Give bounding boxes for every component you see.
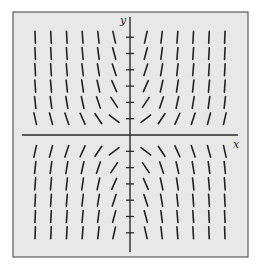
slope-segment [177, 227, 178, 239]
slope-segment [82, 211, 83, 223]
slope-segment [193, 31, 194, 43]
slope-segment [51, 31, 52, 43]
slope-segment [35, 80, 36, 92]
slope-segment [224, 178, 225, 190]
slope-segment [50, 178, 51, 190]
slope-segment [66, 31, 67, 43]
slope-segment [193, 211, 194, 223]
slope-segment [66, 194, 67, 206]
y-axis-label: y [119, 14, 127, 27]
slope-segment [224, 80, 225, 92]
slope-segment [224, 64, 225, 76]
slope-segment [209, 227, 210, 239]
slope-segment [225, 48, 226, 60]
slope-segment [66, 48, 67, 60]
slope-segment [66, 211, 67, 223]
slope-segment [82, 31, 83, 43]
slope-segment [177, 31, 178, 43]
slope-segment [225, 211, 226, 223]
slope-segment [66, 64, 67, 76]
slope-segment [51, 48, 52, 60]
slope-segment [177, 48, 178, 60]
slope-segment [209, 64, 210, 76]
slope-segment [35, 64, 36, 76]
slope-field-diagram: x y [0, 0, 260, 272]
slope-segment [66, 227, 67, 239]
slope-segment [193, 64, 194, 76]
slope-segment [209, 211, 210, 223]
slope-segment [51, 211, 52, 223]
slope-segment [208, 80, 209, 92]
slope-segment [177, 211, 178, 223]
slope-segment [35, 194, 36, 206]
slope-segment [209, 31, 210, 43]
slope-segment [193, 194, 194, 206]
slope-segment [209, 194, 210, 206]
slope-segment [82, 227, 83, 239]
slope-segment [51, 194, 52, 206]
slope-segment [208, 178, 209, 190]
slope-segment [51, 64, 52, 76]
slope-segment [193, 48, 194, 60]
slope-segment [35, 178, 36, 190]
slope-segment [35, 48, 36, 60]
slope-segment [209, 48, 210, 60]
slope-segment [224, 194, 225, 206]
slope-segment [193, 227, 194, 239]
x-axis-label: x [233, 138, 240, 151]
slope-segment [51, 227, 52, 239]
slope-segment [35, 211, 36, 223]
slope-segment [50, 80, 51, 92]
slope-segment [82, 48, 83, 60]
